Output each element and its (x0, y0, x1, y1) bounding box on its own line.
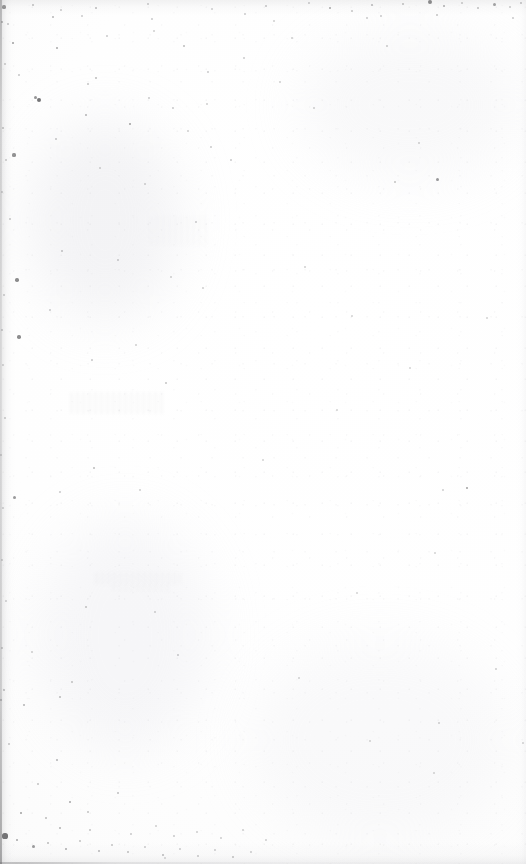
right-edge-shadow (516, 0, 526, 864)
bottom-edge-shadow (0, 842, 526, 864)
left-gutter-shadow (0, 0, 16, 864)
scanned-page (0, 0, 526, 864)
paper-background (0, 0, 526, 864)
top-edge-shadow (0, 0, 526, 16)
left-edge-line (0, 0, 2, 864)
